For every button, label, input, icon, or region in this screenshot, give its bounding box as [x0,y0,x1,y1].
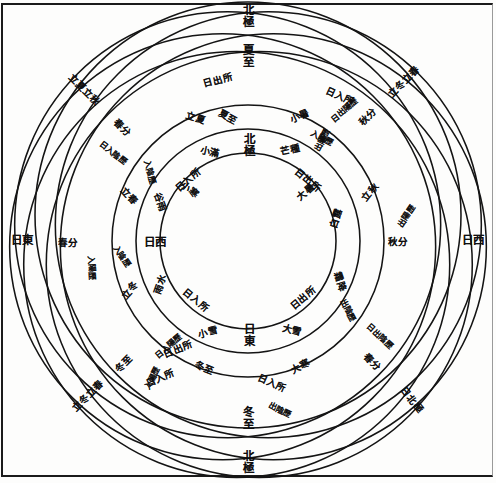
heng-ring-group [10,2,487,477]
heng-circle-inner [112,105,384,377]
heng-circle [55,12,481,438]
heng-circles-svg [0,0,496,483]
heng-circle [15,12,441,438]
diagram-plate [0,0,496,483]
heng-circle [10,34,436,460]
heng-circle [24,51,450,477]
heng-circle [60,34,486,460]
heng-circle [46,51,472,477]
heng-circle-inner [136,129,360,353]
heng-circle-inner [160,153,336,329]
diagram-page: 北極夏至冬至北極日東日西北極日西日東日入所日出所日入所日出所立夏立秋春分日入陰歷… [0,0,496,483]
heng-circle [35,2,461,428]
